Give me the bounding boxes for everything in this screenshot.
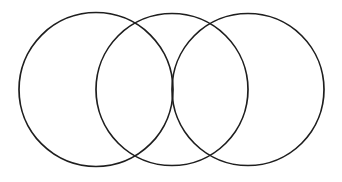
venn-diagram (0, 0, 342, 182)
